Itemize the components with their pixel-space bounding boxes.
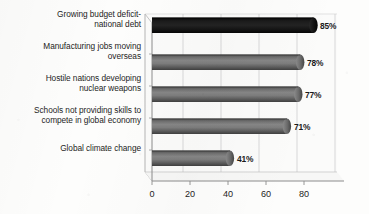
x-tick-label-3: 60	[256, 189, 276, 199]
bar-series-item	[152, 119, 291, 135]
x-tick-label-4: 80	[294, 189, 314, 199]
bar-chart: Growing budget deficit- national debt Ma…	[0, 0, 369, 214]
x-axis	[152, 181, 344, 185]
value-label-2: 77%	[305, 90, 321, 100]
category-label-2: Hostile nations developing nuclear weapo…	[13, 73, 141, 94]
bar-series-item	[152, 87, 302, 103]
category-label-3: Schools not providing skills to compete …	[1, 105, 141, 126]
plot-floor	[145, 172, 344, 181]
category-label-4: Global climate change	[13, 143, 141, 153]
category-label-1: Manufacturing jobs moving overseas	[13, 41, 141, 62]
bar-series-item	[152, 55, 304, 71]
bar-series-item	[152, 18, 318, 34]
category-label-0: Growing budget deficit- national debt	[13, 9, 141, 30]
x-tick-label-1: 20	[180, 189, 200, 199]
x-tick-label-2: 40	[218, 189, 238, 199]
x-tick-label-0: 0	[142, 189, 162, 199]
value-label-1: 78%	[307, 58, 323, 68]
bar-series-item	[152, 151, 234, 167]
value-label-0: 85%	[320, 21, 336, 31]
value-label-4: 41%	[237, 154, 253, 164]
value-label-3: 71%	[294, 122, 310, 132]
